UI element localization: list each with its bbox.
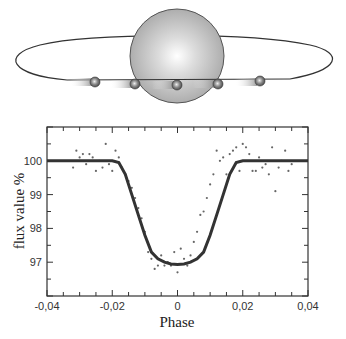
y-tick-label: 98 [30, 222, 42, 234]
planet-4 [193, 79, 223, 89]
planet-5 [235, 76, 265, 86]
orbit-illustration [16, 9, 333, 103]
x-tick-label: -0,04 [34, 300, 59, 312]
planet-1 [70, 77, 100, 87]
transit-diagram: 979899100 -0,04-0,0200,020,04 Phase flux… [0, 0, 346, 339]
x-tick-label: 0 [174, 300, 180, 312]
x-axis-title: Phase [160, 314, 195, 330]
axis-ticks [47, 127, 308, 296]
x-tick-labels: -0,04-0,0200,020,04 [34, 300, 318, 312]
y-tick-label: 97 [30, 256, 42, 268]
light-curve-chart: 979899100 -0,04-0,0200,020,04 Phase flux… [11, 127, 319, 330]
planet-2 [110, 79, 140, 89]
planet-3 [152, 80, 182, 90]
y-axis-title: flux value % [11, 173, 27, 250]
x-tick-label: 0,02 [232, 300, 253, 312]
model-curve [47, 161, 308, 265]
x-tick-label: 0,04 [297, 300, 318, 312]
plot-frame [47, 127, 308, 296]
y-tick-label: 99 [30, 189, 42, 201]
data-points [72, 143, 293, 274]
x-tick-label: -0,02 [100, 300, 125, 312]
y-tick-label: 100 [24, 155, 42, 167]
